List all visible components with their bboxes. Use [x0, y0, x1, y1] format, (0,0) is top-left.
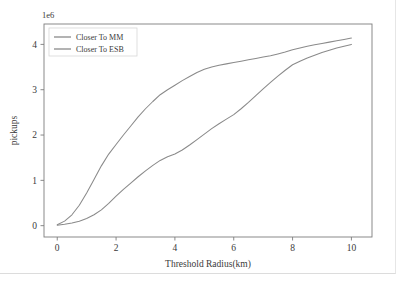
x-axis-title: Threshold Radius(km)	[165, 259, 251, 270]
x-tick-label: 8	[290, 243, 295, 253]
x-tick-label: 6	[231, 243, 236, 253]
x-tick-label: 4	[173, 243, 178, 253]
chart-canvas: 0246810012341e6Threshold Radius(km)picku…	[0, 0, 396, 289]
figure-container: 0246810012341e6Threshold Radius(km)picku…	[0, 0, 396, 289]
y-tick-label: 0	[32, 221, 37, 231]
x-tick-label: 10	[347, 243, 357, 253]
series-line-2	[57, 44, 351, 225]
y-axis-title: pickups	[9, 115, 19, 145]
y-axis-exponent-label: 1e6	[42, 10, 54, 20]
y-tick-label: 4	[32, 40, 37, 50]
legend-label-1: Closer To MM	[76, 33, 123, 42]
x-tick-label: 2	[114, 243, 119, 253]
series-line-1	[57, 38, 351, 225]
y-tick-label: 1	[32, 176, 37, 186]
y-tick-label: 3	[32, 85, 37, 95]
y-tick-label: 2	[32, 130, 37, 140]
x-tick-label: 0	[55, 243, 60, 253]
legend-label-2: Closer To ESB	[76, 45, 124, 54]
